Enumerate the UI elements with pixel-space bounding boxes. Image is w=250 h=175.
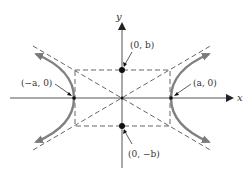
vertex-neg-a: [72, 96, 76, 100]
leader-0-b-head: [123, 62, 127, 67]
left-branch-lower: [36, 98, 74, 142]
label-a: (a, 0): [193, 78, 217, 88]
right-branch: [171, 54, 209, 98]
hyperbola-diagram: y x (0, b) (0, −b) (−a, 0) (a, 0): [0, 0, 250, 175]
right-branch-lower: [171, 98, 209, 142]
vertex-a: [169, 96, 173, 100]
left-branch: [36, 54, 74, 98]
point-0-neg-b: [119, 123, 125, 129]
label-0-neg-b: (0, −b): [128, 149, 160, 159]
point-0-b: [119, 67, 125, 73]
leader-0-neg-b-head: [123, 129, 127, 134]
label-neg-a: (−a, 0): [21, 78, 52, 88]
origin: [121, 97, 124, 100]
label-0-b: (0, b): [130, 40, 154, 50]
x-axis-label: x: [237, 92, 243, 103]
y-axis-label: y: [115, 11, 122, 22]
